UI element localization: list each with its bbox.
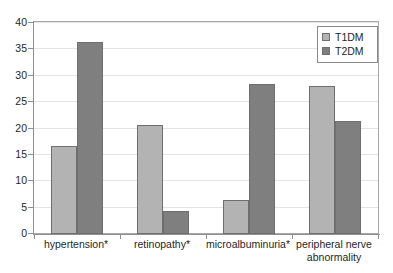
legend-swatch-t2dm-icon — [322, 47, 330, 55]
legend-item-t2dm: T2DM — [322, 44, 373, 58]
legend-item-t1dm: T1DM — [322, 30, 373, 44]
y-axis-tick-label: 0 — [1, 228, 27, 238]
bar — [137, 125, 163, 234]
y-axis-tick — [28, 75, 33, 76]
y-axis-tick-label: 25 — [1, 96, 27, 106]
legend-swatch-t1dm-icon — [322, 33, 330, 41]
y-axis-tick-label: 35 — [1, 43, 27, 53]
y-axis-tick-label: 20 — [1, 123, 27, 133]
x-axis-category-label: peripheral nerve abnormality — [283, 238, 385, 263]
legend-label-t2dm: T2DM — [335, 46, 364, 57]
bar-chart: 0510152025303540 hypertension*retinopath… — [0, 0, 393, 273]
y-axis-tick-label: 5 — [1, 202, 27, 212]
bar — [51, 146, 77, 234]
legend-label-t1dm: T1DM — [335, 32, 364, 43]
y-axis-tick-label: 30 — [1, 70, 27, 80]
bar — [249, 84, 275, 234]
bar — [163, 211, 189, 234]
y-axis-tick — [28, 48, 33, 49]
y-axis-tick — [28, 180, 33, 181]
y-axis-tick — [28, 22, 33, 23]
bar — [335, 121, 361, 234]
bar — [223, 200, 249, 234]
y-axis-tick — [28, 207, 33, 208]
y-axis-tick-label: 10 — [1, 175, 27, 185]
bar — [309, 86, 335, 234]
legend: T1DM T2DM — [317, 26, 378, 63]
y-axis-tick — [28, 128, 33, 129]
bar — [77, 42, 103, 234]
x-axis-category-labels: hypertension*retinopathy*microalbuminuri… — [33, 238, 380, 273]
y-axis-tick — [28, 154, 33, 155]
y-axis-tick — [28, 101, 33, 102]
y-axis-tick-label: 15 — [1, 149, 27, 159]
y-axis-tick-labels: 0510152025303540 — [0, 0, 27, 273]
y-axis-tick-label: 40 — [1, 17, 27, 27]
